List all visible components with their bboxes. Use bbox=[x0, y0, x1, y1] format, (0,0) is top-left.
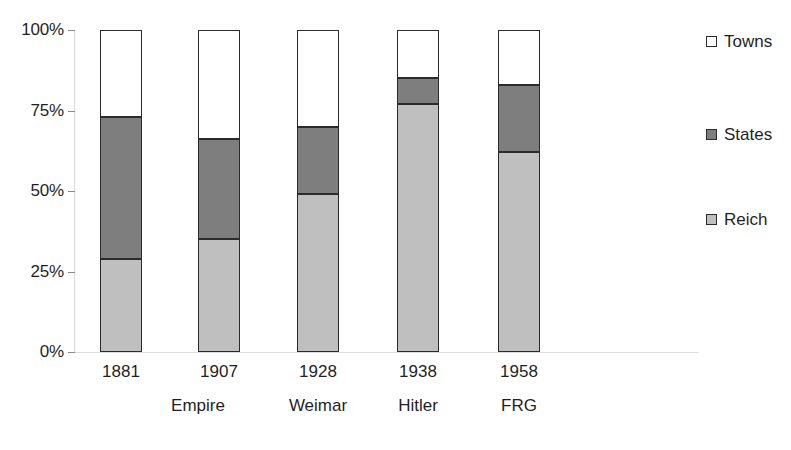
bar-segment-reich[interactable] bbox=[397, 104, 439, 352]
legend-swatch-icon bbox=[706, 129, 717, 140]
x-axis-era-label: FRG bbox=[454, 396, 584, 416]
y-axis-tick-mark bbox=[68, 352, 75, 353]
legend-swatch-icon bbox=[706, 36, 717, 47]
legend-item-states[interactable]: States bbox=[706, 126, 772, 143]
bar-segment-states[interactable] bbox=[498, 85, 540, 153]
bar-segment-towns[interactable] bbox=[498, 30, 540, 85]
x-axis-era-label: Empire bbox=[133, 396, 263, 416]
bar-stack[interactable] bbox=[198, 30, 240, 352]
y-axis-tick-mark bbox=[68, 30, 75, 31]
bar-segment-towns[interactable] bbox=[198, 30, 240, 139]
bar-segment-reich[interactable] bbox=[498, 152, 540, 352]
x-axis-year-label: 1907 bbox=[174, 362, 264, 382]
bar-segment-states[interactable] bbox=[198, 139, 240, 239]
bar-stack[interactable] bbox=[297, 30, 339, 352]
x-axis-year-label: 1958 bbox=[474, 362, 564, 382]
y-axis-tick-mark bbox=[68, 272, 75, 273]
bar-stack[interactable] bbox=[100, 30, 142, 352]
legend-label: Reich bbox=[724, 211, 767, 228]
x-axis-year-label: 1938 bbox=[373, 362, 463, 382]
bar-segment-states[interactable] bbox=[297, 127, 339, 195]
bar-stack[interactable] bbox=[397, 30, 439, 352]
bar-segment-reich[interactable] bbox=[100, 259, 142, 352]
bar-segment-reich[interactable] bbox=[297, 194, 339, 352]
stacked-bar-chart: 100%75%50%25%0% 18811907192819381958Empi… bbox=[0, 0, 791, 450]
x-axis-year-label: 1928 bbox=[273, 362, 363, 382]
bar-segment-towns[interactable] bbox=[397, 30, 439, 78]
x-axis-year-label: 1881 bbox=[76, 362, 166, 382]
legend-item-reich[interactable]: Reich bbox=[706, 211, 767, 228]
legend-item-towns[interactable]: Towns bbox=[706, 33, 772, 50]
bar-segment-towns[interactable] bbox=[297, 30, 339, 127]
legend-swatch-icon bbox=[706, 214, 717, 225]
y-axis-tick-mark bbox=[68, 191, 75, 192]
plot-area: 18811907192819381958EmpireWeimarHitlerFR… bbox=[0, 0, 791, 450]
legend-label: Towns bbox=[724, 33, 772, 50]
y-axis-tick-mark bbox=[68, 111, 75, 112]
bar-segment-towns[interactable] bbox=[100, 30, 142, 117]
bar-segment-reich[interactable] bbox=[198, 239, 240, 352]
bar-segment-states[interactable] bbox=[100, 117, 142, 259]
legend-label: States bbox=[724, 126, 772, 143]
bar-segment-states[interactable] bbox=[397, 78, 439, 104]
bar-stack[interactable] bbox=[498, 30, 540, 352]
chart-legend: TownsStatesReich bbox=[706, 0, 791, 450]
